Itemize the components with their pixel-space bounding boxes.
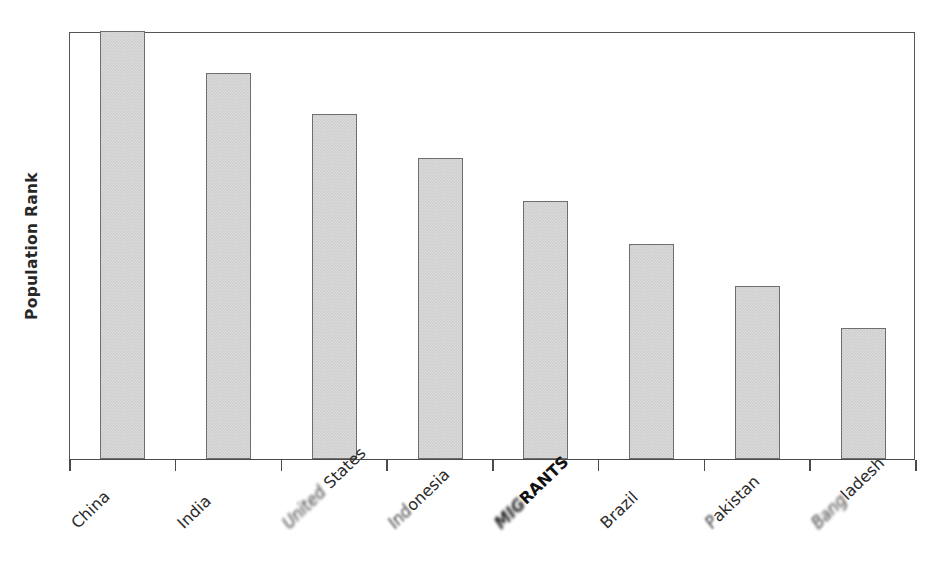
bar-chart: Population Rank ChinaIndiaUnited StatesI…: [0, 0, 937, 587]
x-label-migrants: MIGRANTS: [490, 452, 572, 532]
x-tick-3: [386, 460, 388, 471]
x-label-legible-fragment: Brazil: [596, 488, 641, 533]
bar-pakistan: [735, 286, 780, 459]
x-tick-2: [281, 460, 283, 471]
x-tick-6: [704, 460, 706, 471]
x-label-indonesia: Indonesia: [385, 465, 454, 532]
bar-indonesia: [418, 158, 463, 459]
x-tick-1: [175, 460, 177, 471]
x-label-china: China: [67, 487, 113, 532]
bar-bangladesh: [841, 328, 886, 459]
x-label-legible-fragment: ladesh: [837, 453, 888, 503]
x-label-legible-fragment: China: [67, 487, 113, 532]
bar-brazil: [629, 244, 674, 459]
x-label-legible-fragment: onesia: [403, 465, 454, 515]
x-label-legible-fragment: India: [173, 491, 214, 532]
plot-area: [69, 32, 915, 460]
x-tick-7: [809, 460, 811, 471]
bar-india: [206, 73, 251, 459]
x-tick-4: [492, 460, 494, 471]
x-label-bangladesh: Bangladesh: [808, 453, 889, 532]
x-tick-5: [598, 460, 600, 471]
x-label-pakistan: Pakistan: [702, 472, 764, 533]
bar-united-states: [312, 114, 357, 459]
y-axis-title-text: Population Rank: [23, 172, 41, 320]
x-label-brazil: Brazil: [596, 488, 641, 533]
x-label-legible-fragment: RANTS: [515, 452, 572, 508]
x-tick-0: [69, 460, 71, 471]
y-axis-title: Population Rank: [0, 32, 64, 460]
x-tick-8: [915, 460, 917, 471]
x-label-smudged-fragment: United: [279, 480, 329, 534]
bar-migrants: [523, 201, 568, 459]
bar-china: [100, 31, 145, 459]
x-label-legible-fragment: akistan: [709, 472, 764, 526]
x-label-india: India: [173, 491, 214, 532]
